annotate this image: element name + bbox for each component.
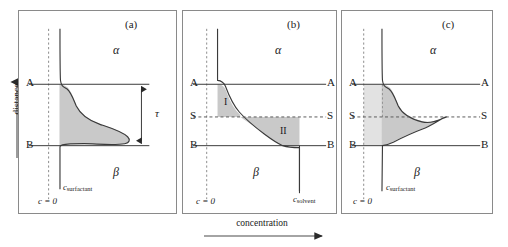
panel-b-plot: [183, 11, 336, 213]
concentration-arrow-icon: [182, 231, 342, 245]
panel-c-label-S-right: S: [481, 110, 487, 121]
panel-c-label-B-right: B: [481, 139, 488, 150]
panel-c-surface-excess-fill: [381, 84, 446, 145]
panel-b-phase-beta: β: [253, 165, 259, 180]
concentration-axis: concentration: [182, 218, 342, 246]
panel-a-c-zero-label: c = 0: [38, 196, 57, 206]
panel-b-region-I-label: I: [224, 96, 227, 107]
panel-b-region-II-label: II: [280, 125, 287, 136]
panel-c-label-B-left: B: [349, 139, 356, 150]
panel-b-label-B-right: B: [327, 139, 334, 150]
panel-b-c-zero-label: c = 0: [196, 196, 215, 206]
panel-b-caption: (b): [287, 18, 300, 30]
panel-c-phase-beta: β: [414, 165, 420, 180]
panel-a-plot: [19, 11, 176, 213]
panel-c-c-surfactant-label: csurfactant: [386, 182, 415, 192]
surfactant-concentration-profile-figure: distance concentration: [0, 0, 508, 247]
panel-a-label-A: A: [26, 77, 34, 88]
concentration-axis-label: concentration: [182, 218, 342, 228]
panel-a-c-surfactant-label: csurfactant: [63, 182, 92, 192]
panel-b-label-A-right: A: [327, 77, 335, 88]
panel-c-label-A-left: A: [349, 77, 357, 88]
panel-c: (c) α β A A S S B B csurfactant c = 0: [341, 10, 493, 214]
panel-c-plot: [342, 11, 492, 213]
panel-c-c-subscript: surfactant: [390, 185, 416, 192]
panel-c-label-A-right: A: [481, 77, 489, 88]
panel-a-label-B: B: [26, 139, 33, 150]
panel-a-caption: (a): [125, 18, 137, 30]
panel-c-caption: (c): [442, 18, 454, 30]
panel-b-c-solvent-label: csolvent: [293, 194, 316, 204]
panel-a-phase-beta: β: [113, 165, 119, 180]
panel-b-phase-alpha: α: [275, 43, 281, 58]
panel-b-label-S-left: S: [190, 110, 196, 121]
panel-c-light-strip-fill: [364, 84, 382, 145]
panel-b-region-I-fill: [218, 84, 241, 117]
panel-a: (a) α β A B τ csurfactant c = 0: [18, 10, 177, 214]
panel-b-label-B-left: B: [190, 139, 197, 150]
panel-a-tau-label: τ: [155, 107, 159, 119]
panel-b: (b) α β A A S S B B I II csolvent c = 0: [182, 10, 337, 214]
panel-a-c-subscript: surfactant: [67, 185, 93, 192]
panel-b-c-subscript: solvent: [297, 197, 316, 204]
panel-c-phase-alpha: α: [430, 43, 436, 58]
panel-b-label-A-left: A: [190, 77, 198, 88]
panel-c-label-S-left: S: [349, 110, 355, 121]
panel-b-label-S-right: S: [327, 110, 333, 121]
panel-c-c-zero-label: c = 0: [353, 196, 372, 206]
panel-a-phase-alpha: α: [113, 43, 119, 58]
